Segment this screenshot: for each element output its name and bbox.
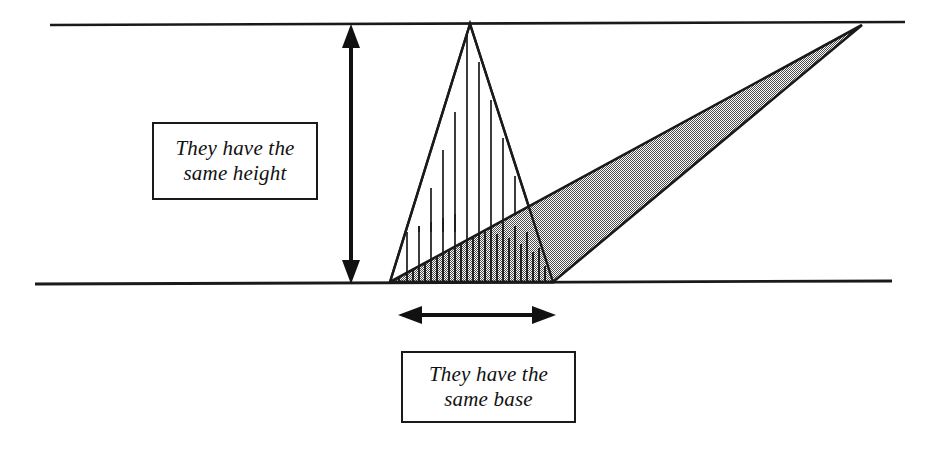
callout-height-line-1: They have the <box>175 136 294 161</box>
they-have-the-same-base-callout: They have the same base <box>401 351 576 423</box>
callout-base-line-2: same base <box>429 387 548 412</box>
callout-height-text: They have the same height <box>175 136 294 186</box>
height-double-arrow <box>342 24 360 284</box>
they-have-the-same-height-callout: They have the same height <box>152 122 318 200</box>
callout-base-text: They have the same base <box>429 362 548 412</box>
callout-base-line-1: They have the <box>429 362 548 387</box>
base-double-arrow <box>398 306 556 324</box>
diagram-canvas: They have the same height They have the … <box>0 0 930 455</box>
top-parallel-line <box>50 22 905 25</box>
callout-height-line-2: same height <box>175 161 294 186</box>
